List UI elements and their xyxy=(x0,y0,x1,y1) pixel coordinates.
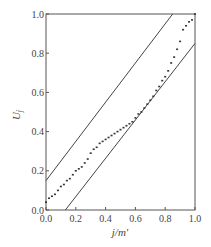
data-point xyxy=(167,70,169,72)
data-point xyxy=(66,180,68,182)
data-point xyxy=(134,117,136,119)
data-point xyxy=(63,184,65,186)
data-point xyxy=(155,90,157,92)
x-tick-label: 1.0 xyxy=(189,213,202,224)
lower-bound-line xyxy=(65,43,195,210)
data-point xyxy=(54,194,56,196)
data-point xyxy=(179,41,181,43)
y-tick-label: 0.4 xyxy=(32,126,45,137)
data-point xyxy=(152,96,154,98)
data-point xyxy=(170,62,172,64)
confidence-band-lines xyxy=(46,14,195,210)
data-point xyxy=(188,21,190,23)
data-point xyxy=(176,48,178,50)
data-point xyxy=(120,129,122,131)
data-point xyxy=(111,135,113,137)
data-point xyxy=(87,158,89,160)
plot-frame xyxy=(46,14,195,210)
data-point xyxy=(131,121,133,123)
data-point xyxy=(72,174,74,176)
y-axis-label: Uj xyxy=(10,109,24,120)
data-point xyxy=(114,133,116,135)
data-point xyxy=(182,29,184,31)
data-point xyxy=(90,152,92,154)
x-axis-label: j/m' xyxy=(110,226,129,238)
data-point xyxy=(81,166,83,168)
data-point xyxy=(191,19,193,21)
data-point xyxy=(48,197,50,199)
data-point xyxy=(78,168,80,170)
data-point xyxy=(69,178,71,180)
y-tick-label: 0.0 xyxy=(32,205,45,216)
data-point xyxy=(122,127,124,129)
data-point xyxy=(57,190,59,192)
data-point xyxy=(185,25,187,27)
data-point xyxy=(128,123,130,125)
data-point xyxy=(194,13,196,15)
data-point xyxy=(93,148,95,150)
data-point xyxy=(45,201,47,203)
data-point xyxy=(99,143,101,145)
data-point xyxy=(117,131,119,133)
chart: 0.00.20.40.60.81.0 0.00.20.40.60.81.0 j/… xyxy=(0,0,211,247)
y-tick-label: 0.6 xyxy=(32,87,45,98)
y-tick-label: 1.0 xyxy=(32,9,45,20)
x-tick-label: 0.8 xyxy=(159,213,172,224)
data-point xyxy=(143,107,145,109)
data-point xyxy=(149,99,151,101)
data-point xyxy=(60,186,62,188)
data-point xyxy=(102,141,104,143)
data-point xyxy=(51,195,53,197)
y-tick-label: 0.2 xyxy=(32,165,45,176)
data-point xyxy=(146,103,148,105)
y-tick-label: 0.8 xyxy=(32,48,45,59)
data-points xyxy=(45,13,196,203)
data-point xyxy=(161,80,163,82)
x-tick-label: 0.2 xyxy=(70,213,83,224)
data-point xyxy=(96,146,98,148)
x-tick-label: 0.6 xyxy=(129,213,142,224)
data-point xyxy=(137,113,139,115)
data-point xyxy=(108,137,110,139)
data-point xyxy=(105,139,107,141)
data-point xyxy=(164,76,166,78)
data-point xyxy=(125,125,127,127)
data-point xyxy=(84,162,86,164)
x-tick-label: 0.4 xyxy=(99,213,112,224)
data-point xyxy=(173,56,175,58)
data-point xyxy=(75,170,77,172)
data-point xyxy=(158,86,160,88)
data-point xyxy=(140,111,142,113)
